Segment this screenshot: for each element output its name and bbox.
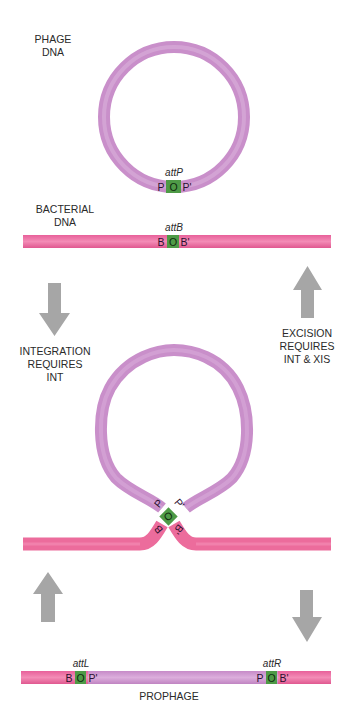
- attP-part-P: P: [157, 181, 164, 193]
- attR-part-P: P: [256, 672, 263, 684]
- bacterial-dna-label-line1: BACTERIAL: [36, 203, 95, 215]
- attB-label: attB: [165, 222, 183, 233]
- synapsis-part-O: O: [161, 509, 175, 523]
- bacterial-dna-label-line2: DNA: [54, 216, 76, 228]
- prophage-label: PROPHAGE: [139, 690, 199, 702]
- stage-free-phage: PHAGE DNA attP P O P' BACTERIAL DNA attB…: [23, 33, 331, 248]
- attB-part-Bprime: B': [180, 236, 189, 248]
- excision-arrow-up-icon: [293, 266, 322, 318]
- attB-part-B: B: [157, 236, 164, 248]
- excision-label-line1: EXCISION: [282, 327, 332, 339]
- attL-part-O: O: [76, 672, 84, 684]
- attL-label: attL: [73, 658, 90, 669]
- phage-dna-highlight: [104, 47, 244, 187]
- integration-label-line2: REQUIRES: [28, 358, 83, 370]
- phage-dna-label-line1: PHAGE: [35, 33, 72, 45]
- attB-part-O: O: [169, 236, 177, 248]
- attP-part-O: O: [169, 181, 177, 193]
- integration-label-line1: INTEGRATION: [20, 345, 91, 357]
- attR-label: attR: [263, 658, 281, 669]
- prophage-dna-bar: [88, 671, 278, 684]
- integration-label-line3: INT: [47, 371, 65, 383]
- attP-part-Pprime: P': [182, 181, 191, 193]
- integration-arrow-down-lower-icon: [292, 590, 322, 642]
- attR-part-Bprime: B': [279, 672, 288, 684]
- synapsis-part-Pprime: P': [172, 496, 187, 511]
- integration-step: INTEGRATION REQUIRES INT: [20, 283, 91, 383]
- excision-step: EXCISION REQUIRES INT & XIS: [280, 266, 335, 365]
- attR-part-O: O: [267, 672, 275, 684]
- bacterial-arm-right: [174, 524, 331, 544]
- stage-prophage: attL B O P' attR P O B' PROPHAGE: [21, 658, 331, 702]
- recombination-diagram: PHAGE DNA attP P O P' BACTERIAL DNA attB…: [0, 0, 350, 714]
- integration-arrow-down-icon: [39, 283, 70, 336]
- bacterial-arm-left: [23, 524, 162, 544]
- attL-part-B: B: [65, 672, 72, 684]
- stage-synapsis: O P P' B B': [23, 350, 331, 544]
- excision-arrow-up-lower-icon: [33, 572, 63, 622]
- excision-label-line3: INT & XIS: [284, 353, 331, 365]
- attL-part-Pprime: P': [88, 672, 97, 684]
- excision-label-line2: REQUIRES: [280, 340, 335, 352]
- attP-label: attP: [165, 167, 183, 178]
- phage-dna-label-line2: DNA: [42, 46, 64, 58]
